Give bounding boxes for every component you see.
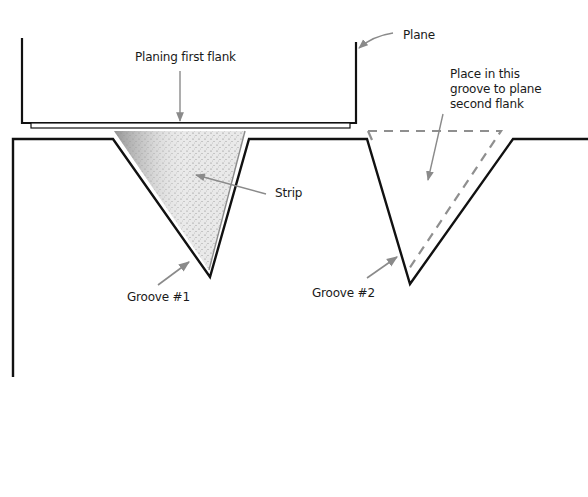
arrow-groove-1 (158, 262, 189, 285)
strip (114, 131, 245, 270)
arrow-groove-2 (367, 257, 397, 278)
arrow-plane (359, 33, 393, 48)
label-strip: Strip (275, 186, 302, 201)
label-groove-1: Groove #1 (127, 290, 190, 305)
workpiece (13, 139, 588, 377)
label-planing-first-flank: Planing first flank (135, 50, 236, 65)
arrow-place-in-groove (428, 114, 443, 180)
label-place-in-groove: Place in this groove to plane second fla… (450, 67, 541, 112)
label-groove-2: Groove #2 (312, 286, 375, 301)
label-plane: Plane (403, 28, 435, 43)
